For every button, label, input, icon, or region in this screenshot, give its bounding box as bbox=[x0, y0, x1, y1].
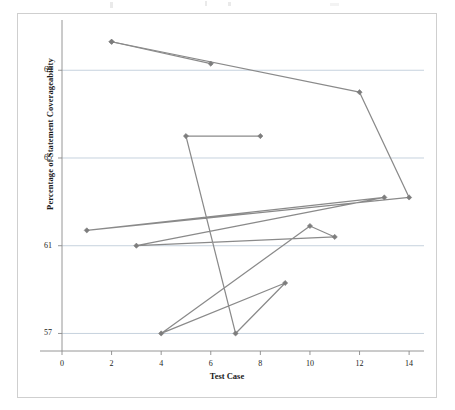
x-tick-label: 0 bbox=[51, 359, 73, 368]
chart-page: 57 61 65 69 0 2 4 6 8 10 12 14 Percentag… bbox=[0, 0, 455, 410]
x-tick-label: 10 bbox=[299, 359, 321, 368]
data-point-marker bbox=[357, 90, 362, 95]
y-tick-label: 61 bbox=[30, 241, 52, 250]
x-axis-title: Test Case bbox=[18, 371, 436, 381]
chart-plot bbox=[18, 14, 436, 397]
scan-artifact bbox=[110, 2, 113, 8]
data-point-marker bbox=[84, 228, 89, 233]
series-line bbox=[112, 42, 211, 64]
x-tick-label: 8 bbox=[249, 359, 271, 368]
scan-artifact bbox=[205, 1, 207, 6]
data-point-marker bbox=[407, 195, 412, 200]
x-tick-label: 4 bbox=[150, 359, 172, 368]
series-line bbox=[87, 42, 409, 334]
y-tick-label: 57 bbox=[30, 328, 52, 337]
scan-artifact bbox=[330, 3, 339, 6]
chart-markers bbox=[84, 39, 412, 336]
data-point-marker bbox=[332, 234, 337, 239]
x-tick-label: 14 bbox=[398, 359, 420, 368]
chart-series bbox=[87, 42, 409, 334]
data-point-marker bbox=[109, 39, 114, 44]
data-point-marker bbox=[134, 243, 139, 248]
x-tick-label: 2 bbox=[101, 359, 123, 368]
x-tick-label: 12 bbox=[349, 359, 371, 368]
scan-artifact bbox=[228, 2, 231, 6]
chart-container: 57 61 65 69 0 2 4 6 8 10 12 14 Percentag… bbox=[17, 13, 437, 398]
y-axis-title: Percentage of Statement Coverageability bbox=[45, 44, 55, 224]
x-tick-label: 6 bbox=[200, 359, 222, 368]
data-point-marker bbox=[183, 133, 188, 138]
data-point-marker bbox=[258, 133, 263, 138]
